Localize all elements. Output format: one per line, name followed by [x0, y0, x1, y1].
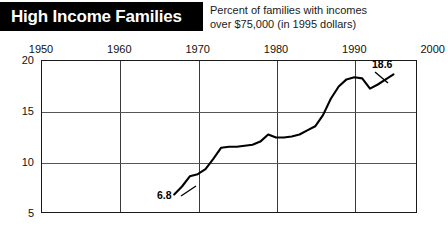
- subtitle-line-2: over $75,000 (in 1995 dollars): [210, 18, 445, 32]
- y-tick-20: 20: [6, 54, 34, 66]
- subtitle-line-1: Percent of families with incomes: [210, 4, 445, 18]
- vertical-gridline-1990: [355, 61, 356, 212]
- x-tick-1980: 1980: [264, 43, 288, 55]
- x-tick-2000: 2000: [420, 43, 444, 55]
- x-tick-1990: 1990: [342, 43, 366, 55]
- vertical-gridline-1960: [120, 61, 121, 212]
- page-title: High Income Families: [0, 7, 182, 27]
- annotation-start-value: 6.8: [157, 189, 172, 201]
- y-tick-10: 10: [6, 156, 34, 168]
- vertical-gridline-1980: [277, 61, 278, 212]
- x-tick-1960: 1960: [107, 43, 131, 55]
- title-banner: High Income Families: [0, 2, 203, 31]
- chart-subtitle: Percent of families with incomes over $7…: [210, 4, 445, 31]
- horizontal-gridline-10: [42, 163, 416, 164]
- horizontal-gridline-15: [42, 112, 416, 113]
- vertical-gridline-1970: [199, 61, 200, 212]
- annotation-end-value: 18.6: [372, 58, 392, 70]
- y-tick-15: 15: [6, 105, 34, 117]
- y-tick-5: 5: [6, 207, 34, 219]
- plot-area: [41, 60, 417, 213]
- x-tick-1970: 1970: [185, 43, 209, 55]
- high-income-families-chart: High Income Families Percent of families…: [0, 0, 448, 229]
